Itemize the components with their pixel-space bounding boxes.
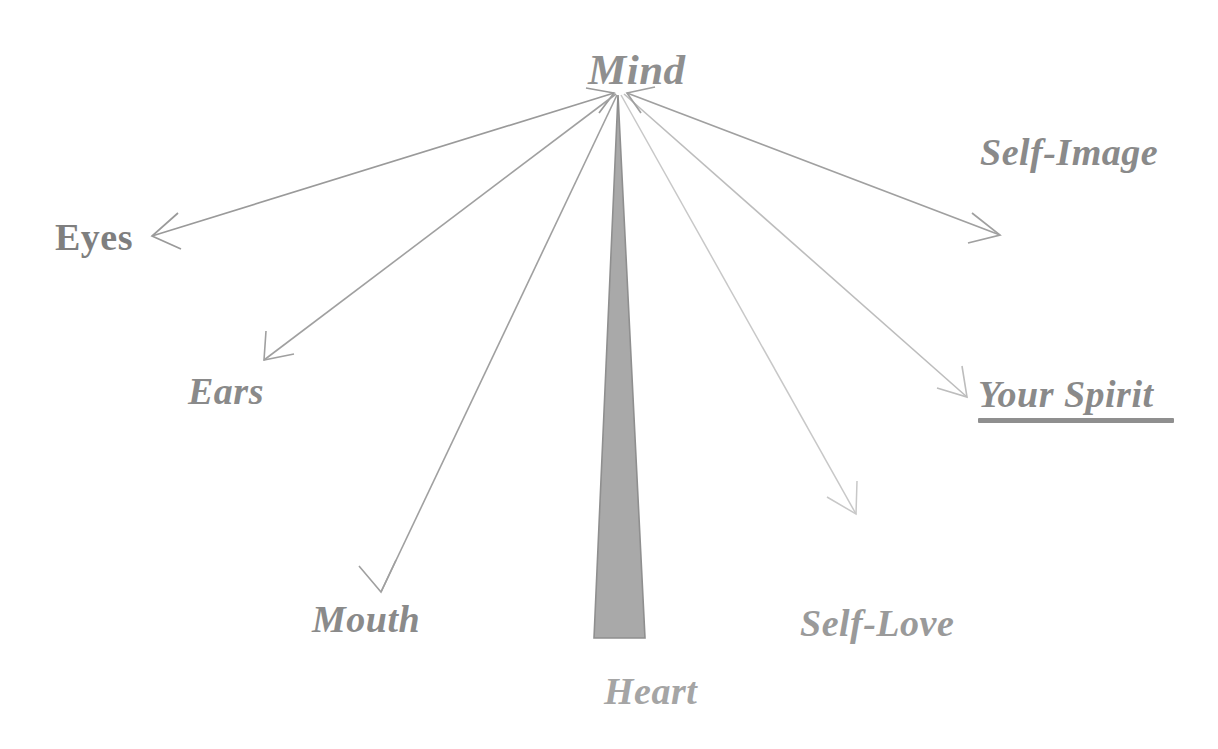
node-label-eyes[interactable]: Eyes <box>55 218 133 256</box>
connector-mind-ears <box>264 94 616 360</box>
node-label-mouth[interactable]: Mouth <box>312 600 420 638</box>
your-spirit-underline <box>978 418 1174 423</box>
node-label-ears[interactable]: Ears <box>188 372 264 410</box>
connector-mind-your-spirit <box>624 94 967 397</box>
node-label-self-image[interactable]: Self-Image <box>980 133 1158 171</box>
connector-mind-eyes <box>152 88 614 249</box>
heart-triangle-shape <box>594 95 645 638</box>
node-label-your-spirit[interactable]: Your Spirit <box>978 375 1154 413</box>
connector-mind-mouth <box>359 95 617 592</box>
diagram-canvas: Mind Eyes Ears Mouth Heart Self-Love You… <box>0 0 1218 749</box>
node-label-mind[interactable]: Mind <box>588 48 686 91</box>
node-label-self-love[interactable]: Self-Love <box>800 604 954 642</box>
connector-mind-self-love <box>621 95 857 514</box>
node-label-heart[interactable]: Heart <box>604 672 697 710</box>
connector-mind-self-image <box>627 87 1000 243</box>
